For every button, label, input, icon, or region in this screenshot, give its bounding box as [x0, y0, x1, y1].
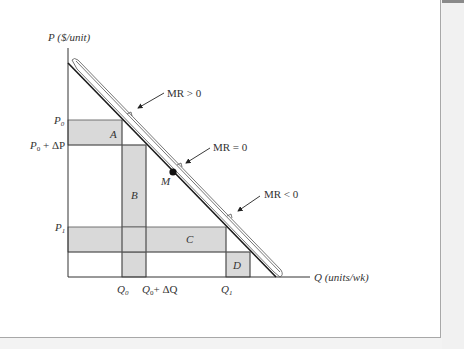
label-p0-dp: P0 + ΔP	[29, 139, 65, 153]
label-p1: P1	[54, 221, 65, 235]
annotation-mr-pos: MR > 0	[167, 87, 202, 99]
arrow-mr-zero	[186, 148, 210, 163]
region-b	[122, 145, 146, 277]
demand-diagram: P ($/unit) Q (units/wk) P0 P0 + ΔP P1 Q0…	[0, 0, 464, 349]
label-p0: P0	[53, 114, 65, 128]
point-m	[169, 168, 176, 175]
region-c-label: C	[186, 233, 194, 245]
y-axis-label: P ($/unit)	[47, 31, 91, 44]
label-q0-dq: Q0+ ΔQ	[142, 283, 177, 297]
region-d-label: D	[232, 259, 241, 271]
region-c	[68, 227, 226, 252]
label-q1: Q1	[221, 283, 232, 297]
arrow-mr-pos	[138, 93, 164, 108]
region-b-label: B	[131, 189, 138, 201]
region-a-label: A	[109, 128, 117, 140]
x-axis-label: Q (units/wk)	[314, 271, 369, 284]
annotation-mr-neg: MR < 0	[264, 188, 299, 200]
point-m-label: M	[160, 175, 171, 187]
annotation-mr-zero: MR = 0	[213, 141, 248, 153]
arrow-mr-neg	[238, 196, 260, 211]
label-q0: Q0	[117, 283, 129, 297]
